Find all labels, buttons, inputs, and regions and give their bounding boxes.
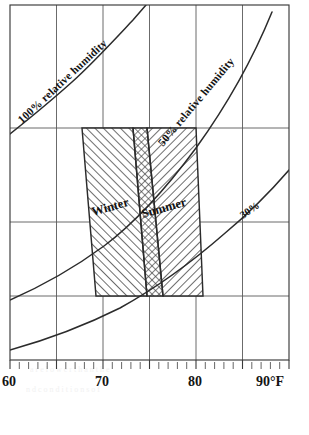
svg-text:a r e l o w e r: a r e l o w e r t h a n t h e [30,365,110,374]
svg-text:n d c o n d i t i: n d c o n d i t i o n s o f [26,385,100,394]
axis-tick-label-60: 60 [2,374,16,389]
axis-tick-label-70: 70 [95,374,109,389]
psychrometric-chart-canvas: a r e l o w e r t h a n t h e n d c o n … [0,0,309,435]
comfort-chart-figure: a r e l o w e r t h a n t h e n d c o n … [0,0,309,435]
axis-tick-label-80: 80 [188,374,202,389]
axis-tick-label-90: 90°F [256,374,284,389]
